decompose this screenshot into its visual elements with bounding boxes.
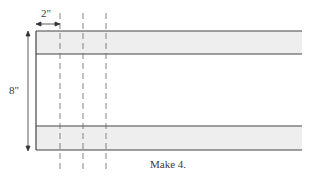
strip-diagram	[0, 0, 320, 179]
caption: Make 4.	[150, 158, 186, 170]
bottom-band	[36, 126, 302, 150]
top-band	[36, 31, 302, 54]
height-dimension-arrow	[26, 31, 30, 151]
height-label: 8"	[9, 84, 19, 96]
width-label: 2"	[41, 7, 51, 19]
width-dimension-arrow	[36, 22, 60, 26]
